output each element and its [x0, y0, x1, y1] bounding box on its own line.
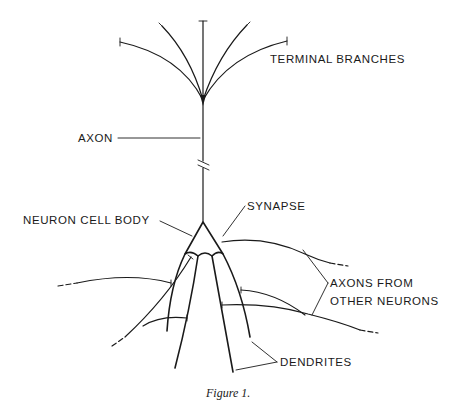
synaptic-terminals [171, 255, 241, 321]
incoming-axon-left-1 [77, 278, 171, 284]
neuron-cell-body-label: NEURON CELL BODY [23, 215, 150, 227]
terminal-branch-far-left [120, 42, 203, 100]
dendrite-outer-left [167, 254, 185, 331]
incoming-axon-left-2b [143, 317, 187, 326]
synapse-leader-line [223, 206, 245, 236]
other-neurons-label: OTHER NEURONS [330, 296, 439, 308]
terminal-branches [120, 21, 287, 106]
dendrites [167, 254, 250, 372]
axon-shaft [198, 100, 209, 222]
axon-label: AXON [78, 133, 113, 145]
axons-from-label: AXONS FROM [330, 278, 413, 290]
terminal-branches-label: TERMINAL BRANCHES [270, 54, 405, 66]
dendrite-outer-right [223, 254, 250, 337]
incoming-axon-right-2 [222, 305, 360, 330]
axons-label-bracket [303, 250, 328, 315]
incoming-axon-left-2a [125, 257, 191, 337]
cell-body [185, 222, 223, 256]
dendrites-label-bracket [236, 342, 277, 370]
dendrites-label: DENDRITES [280, 357, 352, 369]
cell-body-leader-line [160, 221, 192, 236]
synapse-label: SYNAPSE [247, 201, 306, 213]
dendrite-inner-right [212, 256, 233, 372]
figure-caption: Figure 1. [206, 386, 250, 401]
dendrite-inner-left [175, 256, 198, 368]
neuron-diagram: TERMINAL BRANCHES AXON NEURON CELL BODY … [0, 0, 468, 408]
incoming-axon-top-right [222, 240, 330, 263]
